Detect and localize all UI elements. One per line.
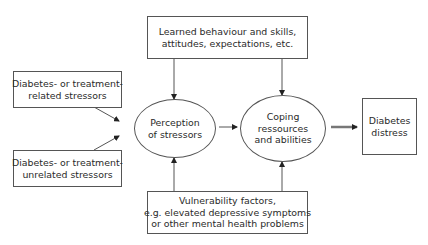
diagram-canvas: Learned behaviour and skills, attitudes,… (0, 0, 428, 245)
node-text: ressources (258, 123, 308, 135)
node-text: or other mental health problems (151, 218, 304, 230)
arrow-unrelated-to-perception (94, 136, 119, 150)
node-text: related stressors (28, 90, 106, 102)
node-text: and abilities (254, 134, 311, 146)
node-text: e.g. elevated depressive symptoms (144, 207, 311, 219)
node-vulnerability-factors: Vulnerability factors, e.g. elevated dep… (147, 191, 308, 234)
node-related-stressors: Diabetes- or treatment- related stressor… (13, 71, 122, 108)
node-text: of stressors (148, 129, 202, 141)
node-diabetes-distress: Diabetes distress (362, 98, 417, 155)
node-text: unrelated stressors (22, 169, 112, 181)
node-text: Diabetes- or treatment- (12, 78, 123, 90)
node-text: distress (371, 127, 407, 139)
node-text: Coping (267, 111, 300, 123)
node-perception-of-stressors: Perception of stressors (134, 99, 216, 158)
node-text: Vulnerability factors, (179, 195, 276, 207)
node-text: Diabetes- or treatment- (12, 157, 123, 169)
node-text: attitudes, expectations, etc. (162, 38, 294, 50)
node-text: Learned behaviour and skills, (159, 26, 297, 38)
arrow-related-to-perception (94, 107, 119, 121)
node-text: Perception (150, 117, 200, 129)
node-learned-behaviour: Learned behaviour and skills, attitudes,… (147, 16, 308, 59)
node-text: Diabetes (369, 115, 411, 127)
node-unrelated-stressors: Diabetes- or treatment- unrelated stress… (13, 150, 122, 187)
node-coping-resources: Coping ressources and abilities (240, 95, 326, 162)
